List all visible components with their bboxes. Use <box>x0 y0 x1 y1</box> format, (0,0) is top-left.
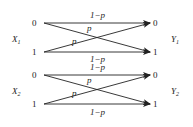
input-variable-x1: X1 <box>11 34 21 45</box>
output-variable-y2: Y2 <box>171 86 179 97</box>
output-variable-y1: Y1 <box>171 34 179 45</box>
edge-label-cross-a: p <box>86 75 92 85</box>
input-symbol-1: 1 <box>32 47 37 57</box>
edge-label-cross-b: p <box>71 88 77 98</box>
output-symbol-1: 1 <box>153 99 158 109</box>
input-symbol-1: 1 <box>32 99 37 109</box>
input-symbol-0: 0 <box>32 18 37 28</box>
edge-label-cross-b: p <box>71 36 77 46</box>
edge-label-top: 1−p <box>90 62 106 72</box>
output-symbol-0: 0 <box>153 70 158 80</box>
channel-1: X1 0 1 1−p p p 1−p 0 1 Y1 <box>11 10 179 64</box>
output-symbol-0: 0 <box>153 18 158 28</box>
input-variable-x2: X2 <box>11 86 21 97</box>
edge-label-cross-a: p <box>86 23 92 33</box>
input-symbol-0: 0 <box>32 70 37 80</box>
edge-label-bottom: 1−p <box>90 107 106 117</box>
output-symbol-1: 1 <box>153 47 158 57</box>
edge-label-top: 1−p <box>90 10 106 20</box>
channel-2: X2 0 1 1−p p p 1−p 0 1 Y2 <box>11 62 179 117</box>
bsc-diagram: X1 0 1 1−p p p 1−p 0 1 Y1 X2 0 1 1−p p p… <box>0 0 193 127</box>
